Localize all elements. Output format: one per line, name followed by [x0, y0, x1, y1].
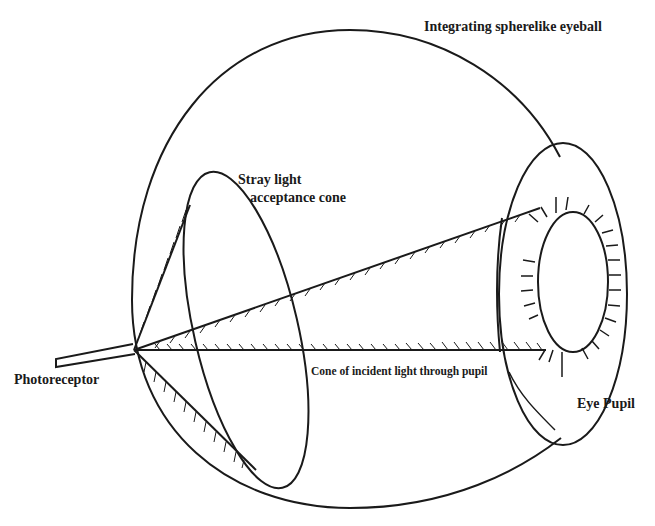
stray-cone-label-line1: Stray light — [238, 173, 301, 187]
photoreceptor-label: Photoreceptor — [14, 373, 99, 387]
pupil-aperture — [538, 212, 608, 352]
eye-optics-diagram: Integrating spherelike eyeball Stray lig… — [0, 0, 655, 526]
stray-cone-label-line2: acceptance cone — [250, 191, 346, 205]
eyeball-label: Integrating spherelike eyeball — [424, 20, 602, 34]
pupil-label: Eye Pupil — [577, 397, 635, 411]
photoreceptor-rod — [56, 344, 135, 367]
incident-cone-label: Cone of incident light through pupil — [311, 366, 487, 378]
stray-cone-ellipse — [159, 160, 333, 499]
incident-cone-edge-top — [134, 208, 540, 350]
diagram-canvas — [0, 0, 655, 526]
incident-cone-hatching — [155, 215, 542, 350]
pupil-leader-line — [509, 372, 555, 430]
stray-cone-hatching — [140, 210, 244, 468]
